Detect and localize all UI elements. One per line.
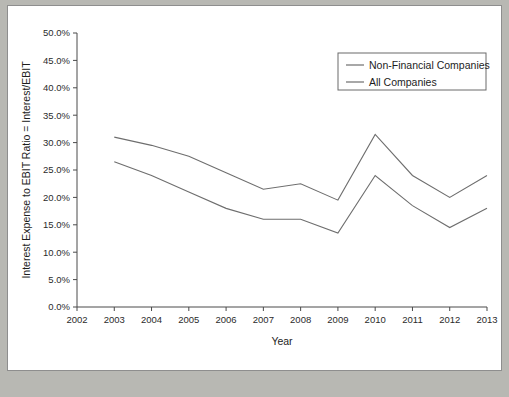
y-tick-label: 40.0% xyxy=(43,82,70,93)
y-tick-label: 0.0% xyxy=(48,301,70,312)
x-tick-label: 2010 xyxy=(365,314,386,325)
y-axis-title: Interest Expense to EBIT Ratio = Interes… xyxy=(20,61,32,279)
line-chart: 0.0%5.0%10.0%15.0%20.0%25.0%30.0%35.0%40… xyxy=(8,6,501,370)
y-tick-label: 15.0% xyxy=(43,219,70,230)
x-tick-label: 2006 xyxy=(216,314,237,325)
x-tick-label: 2003 xyxy=(104,314,125,325)
y-tick-label: 35.0% xyxy=(43,110,70,121)
y-tick-label: 10.0% xyxy=(43,247,70,258)
x-tick-label: 2012 xyxy=(439,314,460,325)
x-tick-label: 2002 xyxy=(66,314,87,325)
y-tick-label: 30.0% xyxy=(43,137,70,148)
y-tick-label: 25.0% xyxy=(43,164,70,175)
x-tick-label: 2007 xyxy=(253,314,274,325)
series-line-1 xyxy=(114,134,487,200)
legend-label-1: Non-Financial Companies xyxy=(369,59,490,71)
x-axis-title: Year xyxy=(271,335,293,347)
x-tick-label: 2013 xyxy=(476,314,497,325)
series-line-2 xyxy=(114,162,487,233)
chart-figure-card: 0.0%5.0%10.0%15.0%20.0%25.0%30.0%35.0%40… xyxy=(7,5,502,371)
x-tick-label: 2011 xyxy=(402,314,422,325)
x-tick-label: 2008 xyxy=(290,314,311,325)
y-tick-label: 5.0% xyxy=(48,274,70,285)
y-tick-label: 50.0% xyxy=(43,27,70,38)
x-tick-label: 2009 xyxy=(327,314,348,325)
legend-label-2: All Companies xyxy=(369,76,437,88)
screenshot-root: 0.0%5.0%10.0%15.0%20.0%25.0%30.0%35.0%40… xyxy=(0,0,509,397)
x-tick-label: 2004 xyxy=(141,314,162,325)
y-tick-label: 20.0% xyxy=(43,192,70,203)
y-tick-label: 45.0% xyxy=(43,55,70,66)
x-tick-label: 2005 xyxy=(178,314,199,325)
